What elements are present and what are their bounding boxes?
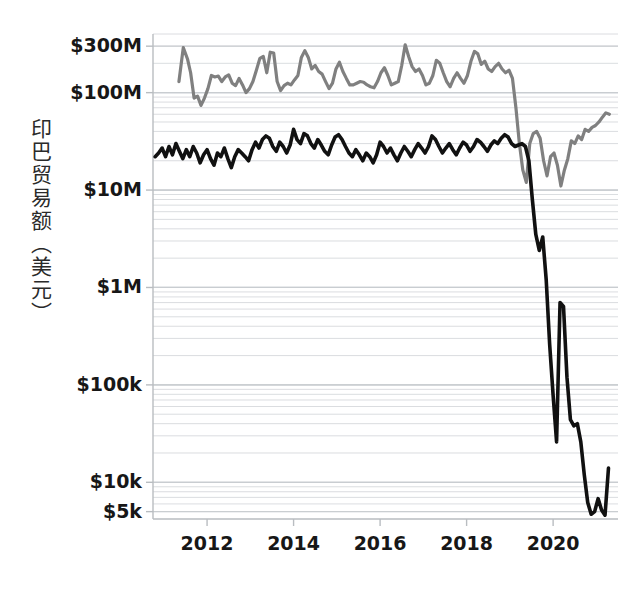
y-tick-label: $300M — [70, 34, 142, 56]
data-series-group — [155, 45, 609, 515]
series-line-black-series — [155, 129, 608, 515]
x-tick-label: 2016 — [345, 532, 415, 554]
y-tick-label: $5k — [103, 500, 142, 522]
major-gridlines — [153, 46, 618, 511]
y-tick-label: $10M — [83, 178, 142, 200]
chart-figure: 印巴贸易额（美元） $300M$100M$10M$1M$100k$10k$5k … — [0, 0, 641, 593]
series-line-gray-series — [179, 45, 609, 186]
minor-gridlines — [153, 34, 618, 512]
y-tick-label: $100k — [76, 373, 142, 395]
x-tick-label: 2020 — [518, 532, 588, 554]
x-tick-label: 2012 — [172, 532, 242, 554]
axis-spines — [153, 34, 618, 519]
y-tick-label: $10k — [90, 470, 142, 492]
y-tick-label: $100M — [70, 81, 142, 103]
axis-tick-marks — [146, 46, 553, 526]
x-tick-label: 2014 — [259, 532, 329, 554]
x-tick-label: 2018 — [432, 532, 502, 554]
y-tick-label: $1M — [97, 275, 142, 297]
